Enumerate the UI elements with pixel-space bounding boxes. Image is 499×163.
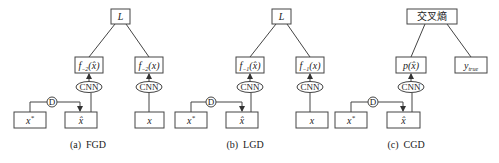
panel-b-lgd: L f−1(x̂) f−1(x) CNN CNN D x* x̂ x (b) L…	[175, 9, 328, 151]
x-clean-label: x	[146, 115, 152, 126]
cnn-label-right: CNN	[139, 82, 159, 92]
x-hat-label: x̂	[78, 115, 84, 126]
denoiser-d-label: D	[370, 97, 377, 107]
loss-label: L	[278, 11, 285, 22]
panel-a-fgd: L f−2(x̂) f−2(x) CNN CNN D x* x̂ x (a)	[14, 9, 164, 151]
guided-denoiser-diagram: L f−2(x̂) f−2(x) CNN CNN D x* x̂ x (a)	[0, 0, 499, 163]
caption-a: (a) FGD	[70, 139, 106, 151]
denoiser-d-label: D	[208, 97, 215, 107]
cnn-label-left: CNN	[240, 82, 260, 92]
x-hat-label: x̂	[239, 115, 245, 126]
cnn-label-left: CNN	[79, 82, 99, 92]
loss-label: L	[117, 11, 124, 22]
cnn-label: CNN	[401, 82, 421, 92]
caption-c: (c) CGD	[387, 139, 424, 151]
x-clean-label: x	[309, 115, 315, 126]
p-xhat-label: p(x̂)	[402, 60, 420, 72]
x-hat-label: x̂	[400, 115, 406, 126]
panel-c-cgd: 交叉熵 p(x̂) ytrue CNN D x* x̂ (c) CGD	[335, 9, 487, 151]
cross-entropy-label: 交叉熵	[417, 10, 447, 22]
caption-b: (b) LGD	[226, 139, 263, 151]
denoiser-d-label: D	[49, 97, 56, 107]
cnn-label-right: CNN	[300, 82, 320, 92]
